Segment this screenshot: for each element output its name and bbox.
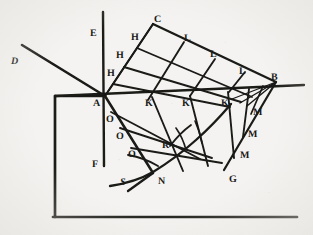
- geometry-drawing: [0, 0, 313, 235]
- point-label-n: N: [158, 177, 165, 187]
- point-label-h2: H: [116, 51, 124, 61]
- vertical-axis-line: [103, 12, 104, 166]
- point-label-m1: M: [253, 108, 262, 118]
- point-label-o3: O: [128, 150, 136, 160]
- point-label-d: D: [11, 57, 18, 67]
- point-label-l1: L: [184, 34, 191, 44]
- point-label-m3: M: [240, 151, 249, 161]
- point-label-k3: K: [221, 99, 229, 109]
- point-label-l2: L: [210, 50, 217, 60]
- point-label-e: E: [90, 29, 97, 39]
- point-label-k2: K: [182, 99, 190, 109]
- point-label-m2: M: [248, 130, 257, 140]
- point-label-s: S: [120, 178, 126, 188]
- point-label-h3: H: [107, 69, 115, 79]
- point-label-c: C: [154, 15, 161, 25]
- point-label-o1: O: [106, 115, 114, 125]
- point-label-g: G: [229, 175, 237, 185]
- point-label-l3: L: [239, 67, 246, 77]
- point-label-f: F: [92, 160, 98, 170]
- point-label-k1: K: [145, 99, 153, 109]
- point-label-r: R: [162, 141, 169, 151]
- point-label-a: A: [93, 99, 100, 109]
- point-label-b: B: [271, 73, 278, 83]
- figure-canvas: DECHHHLLLBAKKKOOOMMMRGNSF: [0, 0, 313, 235]
- point-label-h1: H: [131, 33, 139, 43]
- point-label-o2: O: [116, 132, 124, 142]
- incident-ray-DA: [22, 45, 105, 96]
